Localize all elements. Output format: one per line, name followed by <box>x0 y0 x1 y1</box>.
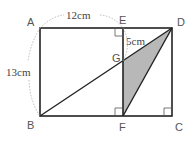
right-angle-f <box>115 108 123 116</box>
dimension-eg: 5cm <box>126 35 145 47</box>
label-g: G <box>112 52 121 64</box>
dimension-arc-ae <box>40 15 64 28</box>
label-b: B <box>27 119 34 131</box>
label-f: F <box>119 121 126 133</box>
dimension-ae: 12cm <box>66 9 91 21</box>
label-a: A <box>27 16 35 28</box>
dimension-ab: 13cm <box>6 66 31 78</box>
dimension-arc-ab-top <box>28 28 40 62</box>
geometry-figure: A D B C E F G 12cm 13cm 5cm <box>0 0 194 144</box>
right-angle-e <box>115 28 123 36</box>
right-angle-c <box>164 108 172 116</box>
label-c: C <box>175 121 183 133</box>
label-d: D <box>177 16 185 28</box>
diagonal-bd <box>40 28 172 116</box>
label-e: E <box>119 14 126 26</box>
dimension-arc-ab-bottom <box>29 80 40 116</box>
